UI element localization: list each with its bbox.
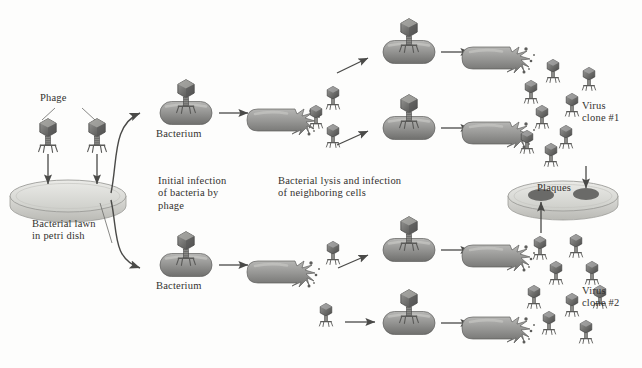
label-virus-clone-1: Virus clone #1 [582, 100, 619, 125]
label-bacterium-bottom: Bacterium [156, 280, 202, 292]
lysing-bacterium-top [247, 109, 320, 136]
infected-bacterium-top-lower [383, 95, 435, 140]
inoculation-arrows [48, 154, 97, 184]
diagram-canvas: Phage Bacterial lawn in petri dish Initi… [0, 0, 642, 368]
spread-arrows-top [337, 58, 368, 145]
label-initial-infection: Initial infection of bacteria by phage [158, 175, 226, 212]
released-phage-top-c [309, 105, 322, 128]
infected-bacterium-top-upper [383, 19, 435, 64]
released-phage-bot-b [319, 303, 332, 326]
lysing-bacterium-bottom [247, 261, 320, 288]
infected-bacterium-top [160, 80, 212, 125]
label-bacterium-top: Bacterium [156, 128, 202, 140]
label-plaques: Plaques [537, 182, 571, 194]
label-bacterial-lawn: Bacterial lawn in petri dish [32, 218, 96, 243]
released-phage-top-a [326, 86, 339, 109]
label-bacterial-lysis: Bacterial lysis and infection of neighbo… [278, 175, 401, 200]
lysing-bacterium-top-upper [462, 47, 535, 74]
spread-arrows-bottom [338, 255, 375, 322]
infected-bacterium-bottom-upper [383, 217, 435, 262]
lysing-bacterium-bottom-lower [462, 317, 535, 344]
label-phage: Phage [40, 92, 67, 104]
bacterial-lawn-dish [10, 180, 126, 222]
infected-bacterium-bottom [160, 232, 212, 277]
label-virus-clone-2: Virus clone #2 [582, 285, 619, 310]
plaque-right [573, 188, 599, 200]
phage-source-1 [39, 119, 58, 153]
released-phage-bot-a [326, 241, 339, 264]
lysing-bacterium-bottom-upper [462, 245, 535, 272]
phage-source-2 [88, 119, 107, 153]
phage-leader-lines [42, 108, 95, 120]
infected-bacterium-bottom-lower [383, 290, 435, 335]
